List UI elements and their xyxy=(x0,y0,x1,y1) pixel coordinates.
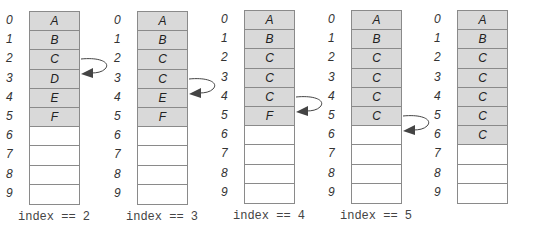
index-number: 3 xyxy=(434,68,448,87)
array-box: ABCCCF xyxy=(244,10,295,204)
index-number: 6 xyxy=(114,126,128,145)
array-cell xyxy=(138,146,187,165)
array-cell: C xyxy=(458,69,507,88)
array-cell xyxy=(245,145,294,164)
array-cell xyxy=(458,165,507,184)
array-cell: C xyxy=(458,49,507,68)
array-cell: C xyxy=(458,126,507,145)
array-cell: B xyxy=(245,30,294,49)
index-number: 6 xyxy=(328,125,342,144)
array-cell: C xyxy=(30,50,79,69)
index-label: index == 5 xyxy=(340,209,412,223)
index-number: 9 xyxy=(221,183,235,202)
array-cell xyxy=(458,184,507,203)
index-number: 7 xyxy=(6,145,20,164)
index-number: 7 xyxy=(114,145,128,164)
array-cell xyxy=(30,185,79,204)
index-number: 8 xyxy=(221,164,235,183)
array-cell: C xyxy=(352,107,401,126)
array-cell: C xyxy=(352,69,401,88)
array-cell: B xyxy=(138,31,187,50)
index-number: 8 xyxy=(328,164,342,183)
array-cell xyxy=(245,165,294,184)
index-number: 3 xyxy=(114,69,128,88)
index-number: 0 xyxy=(434,10,448,29)
array-cell: D xyxy=(30,70,79,89)
array-cell xyxy=(352,145,401,164)
index-number: 5 xyxy=(328,106,342,125)
index-number: 0 xyxy=(221,10,235,29)
array-cell: A xyxy=(245,11,294,30)
index-number: 9 xyxy=(434,183,448,202)
index-number: 0 xyxy=(6,11,20,30)
array-cell: B xyxy=(352,30,401,49)
index-number: 5 xyxy=(114,107,128,126)
array-box: ABCCCCC xyxy=(457,10,508,204)
array-cell: C xyxy=(245,88,294,107)
array-cell: B xyxy=(30,31,79,50)
array-cell: E xyxy=(138,89,187,108)
array-cell xyxy=(352,165,401,184)
curved-arrow-icon xyxy=(79,55,113,81)
index-number: 7 xyxy=(328,144,342,163)
index-number: 4 xyxy=(434,87,448,106)
index-number: 7 xyxy=(221,144,235,163)
index-number: 5 xyxy=(221,106,235,125)
index-number: 3 xyxy=(328,68,342,87)
index-number: 9 xyxy=(114,184,128,203)
array-cell: F xyxy=(245,107,294,126)
index-number: 5 xyxy=(6,107,20,126)
index-label: index == 4 xyxy=(233,209,305,223)
array-cell xyxy=(245,184,294,203)
index-number: 1 xyxy=(6,30,20,49)
array-cell: C xyxy=(458,107,507,126)
index-number: 1 xyxy=(434,29,448,48)
array-cell xyxy=(245,126,294,145)
array-cell xyxy=(138,185,187,204)
array-cell xyxy=(352,126,401,145)
index-number: 3 xyxy=(221,68,235,87)
index-number: 6 xyxy=(6,126,20,145)
array-cell: C xyxy=(138,70,187,89)
index-number: 6 xyxy=(221,125,235,144)
index-number: 0 xyxy=(328,10,342,29)
index-number: 9 xyxy=(6,184,20,203)
index-number: 3 xyxy=(6,69,20,88)
array-cell: C xyxy=(458,88,507,107)
array-cell: C xyxy=(352,88,401,107)
array-box: ABCCEF xyxy=(137,11,188,205)
index-number: 1 xyxy=(328,29,342,48)
index-number: 8 xyxy=(434,164,448,183)
array-cell xyxy=(352,184,401,203)
index-number: 2 xyxy=(6,49,20,68)
index-number: 2 xyxy=(114,49,128,68)
array-cell: C xyxy=(138,50,187,69)
index-number: 2 xyxy=(328,48,342,67)
array-cell xyxy=(458,145,507,164)
array-cell xyxy=(138,127,187,146)
array-cell: A xyxy=(30,12,79,31)
array-box: ABCCCC xyxy=(351,10,402,204)
array-cell: C xyxy=(245,49,294,68)
index-label: index == 3 xyxy=(126,210,198,224)
array-cell xyxy=(138,166,187,185)
array-cell: F xyxy=(30,108,79,127)
array-cell xyxy=(30,127,79,146)
index-number: 6 xyxy=(434,125,448,144)
index-label: index == 2 xyxy=(18,210,90,224)
array-cell: A xyxy=(352,11,401,30)
array-cell xyxy=(30,166,79,185)
index-number: 8 xyxy=(114,165,128,184)
index-number: 4 xyxy=(328,87,342,106)
index-number: 5 xyxy=(434,106,448,125)
array-cell: C xyxy=(245,69,294,88)
array-cell: A xyxy=(138,12,187,31)
index-number: 8 xyxy=(6,165,20,184)
array-cell xyxy=(30,146,79,165)
index-number: 7 xyxy=(434,144,448,163)
array-box: ABCDEF xyxy=(29,11,80,205)
index-number: 4 xyxy=(6,88,20,107)
curved-arrow-icon xyxy=(187,75,221,101)
curved-arrow-icon xyxy=(294,93,328,119)
array-cell: A xyxy=(458,11,507,30)
